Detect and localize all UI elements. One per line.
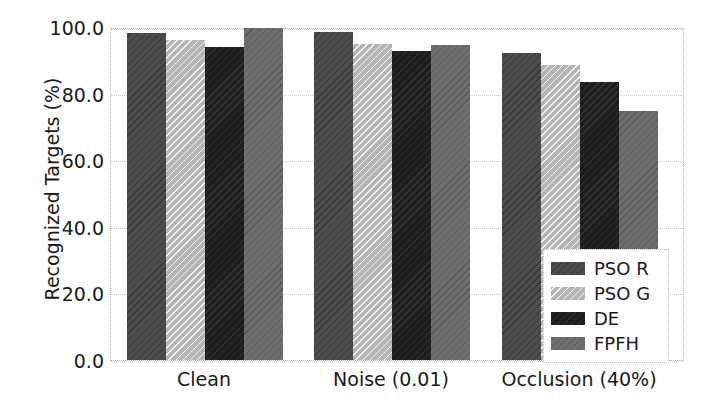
y-tick-label: 100.0	[0, 17, 104, 39]
bar-noise-fpfh	[431, 45, 470, 360]
y-tick-label: 20.0	[0, 283, 104, 305]
y-tick-label: 0.0	[0, 350, 104, 372]
bar-noise-pso-r	[314, 32, 353, 360]
legend-label-pso-g: PSO G	[594, 285, 650, 303]
legend-swatch-pso-r	[551, 262, 585, 275]
bar-clean-pso-r	[127, 33, 166, 360]
x-tick-label-clean: Clean	[177, 368, 231, 390]
y-tick-label: 60.0	[0, 150, 104, 172]
legend-swatch-pso-g	[551, 287, 585, 300]
bar-clean-pso-g	[166, 40, 205, 360]
bar-clean-fpfh	[244, 28, 283, 360]
legend-label-fpfh: FPFH	[594, 335, 639, 353]
x-tick-label-noise: Noise (0.01)	[333, 368, 449, 390]
y-tick-label: 40.0	[0, 217, 104, 239]
bar-chart-figure: Recognized Targets (%) 0.0 20.0 40.0 60.…	[0, 0, 710, 406]
legend-item-pso-g: PSO G	[551, 281, 661, 306]
x-tick-label-occlusion: Occlusion (40%)	[501, 368, 656, 390]
legend-swatch-de	[551, 312, 585, 325]
chart-legend: PSO R PSO G DE FPFH	[543, 249, 669, 363]
y-tick-label: 80.0	[0, 84, 104, 106]
bar-clean-de	[205, 47, 244, 360]
bar-occlusion-pso-r	[502, 53, 541, 360]
legend-label-de: DE	[594, 310, 619, 328]
bar-noise-de	[392, 51, 431, 360]
legend-item-de: DE	[551, 306, 661, 331]
gridline-100	[111, 29, 683, 30]
legend-item-pso-r: PSO R	[551, 256, 661, 281]
bar-noise-pso-g	[353, 44, 392, 360]
legend-label-pso-r: PSO R	[594, 260, 649, 278]
legend-swatch-fpfh	[551, 337, 585, 350]
legend-item-fpfh: FPFH	[551, 331, 661, 356]
